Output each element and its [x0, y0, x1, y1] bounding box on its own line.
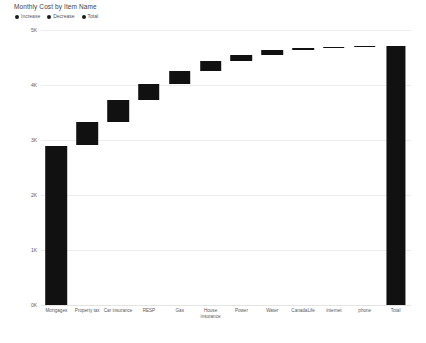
y-axis-tick-label: 3K [13, 137, 37, 143]
y-axis-tick-label: 1K [13, 247, 37, 253]
legend-swatch-icon [47, 15, 51, 19]
bar-slot [257, 30, 288, 305]
x-axis-tick-label: CanadaLife [288, 308, 319, 314]
bar-increase[interactable] [76, 122, 98, 146]
x-axis-tick-label: Gas [164, 308, 195, 314]
bar-increase[interactable] [107, 100, 129, 121]
y-axis-tick-label: 2K [13, 192, 37, 198]
legend-item-total[interactable]: Total [82, 13, 99, 20]
legend-item-label: Total [88, 13, 99, 20]
y-axis-tick-label: 4K [13, 82, 37, 88]
x-axis-tick-label: Mortgages [41, 308, 72, 314]
x-axis-tick-label: RESP [134, 308, 165, 314]
x-axis-tick-label: Total [380, 308, 411, 314]
x-axis-tick-label: Car insurance [103, 308, 134, 314]
y-axis-tick-label: 0K [13, 302, 37, 308]
bar-slot [41, 30, 72, 305]
bar-slot [134, 30, 165, 305]
bar-increase[interactable] [261, 50, 283, 54]
bar-total[interactable] [386, 46, 405, 305]
y-axis-tick-label: 5K [13, 27, 37, 33]
bar-increase[interactable] [169, 71, 191, 84]
x-axis-tick-label: internet [319, 308, 350, 314]
bar-series [41, 30, 411, 305]
legend-swatch-icon [82, 15, 86, 19]
bar-increase[interactable] [46, 146, 68, 306]
bar-increase[interactable] [200, 61, 222, 71]
gridline [41, 305, 411, 306]
x-axis-tick-label: Water [257, 308, 288, 314]
x-axis-tick-labels: MortgagesProperty taxCar insuranceRESPGa… [41, 308, 411, 338]
bar-increase[interactable] [323, 47, 345, 49]
bar-increase[interactable] [292, 48, 314, 50]
bar-slot [349, 30, 380, 305]
bar-slot [164, 30, 195, 305]
bar-slot [226, 30, 257, 305]
bar-slot [319, 30, 350, 305]
bar-increase[interactable] [354, 46, 376, 48]
bar-increase[interactable] [138, 84, 160, 101]
legend-item-label: Increase [21, 13, 40, 20]
waterfall-chart: Monthly Cost by Item Name IncreaseDecrea… [0, 0, 426, 343]
bar-slot [195, 30, 226, 305]
legend-item-decrease[interactable]: Decrease [47, 13, 74, 20]
x-axis-tick-label: House insurance [195, 308, 226, 320]
chart-title: Monthly Cost by Item Name [14, 2, 97, 11]
bar-slot [380, 30, 411, 305]
chart-legend: IncreaseDecreaseTotal [15, 13, 98, 20]
bar-slot [72, 30, 103, 305]
legend-item-increase[interactable]: Increase [15, 13, 40, 20]
bar-slot [103, 30, 134, 305]
bar-slot [288, 30, 319, 305]
x-axis-tick-label: Property tax [72, 308, 103, 314]
plot-area [41, 30, 411, 305]
x-axis-tick-label: phone [349, 308, 380, 314]
legend-swatch-icon [15, 15, 19, 19]
x-axis-tick-label: Power [226, 308, 257, 314]
legend-item-label: Decrease [53, 13, 74, 20]
bar-increase[interactable] [231, 55, 253, 62]
